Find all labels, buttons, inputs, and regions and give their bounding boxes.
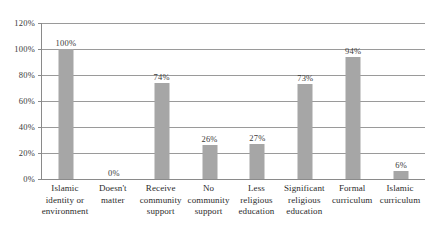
bar[interactable] [58, 49, 73, 179]
y-axis-tick-label: 120% [14, 18, 35, 28]
bar[interactable] [202, 145, 217, 179]
plot-area: 0%20%40%60%80%100%120% 100%0%74%26%27%73… [41, 23, 425, 180]
bar-chart: 0%20%40%60%80%100%120% 100%0%74%26%27%73… [0, 0, 435, 234]
bar[interactable] [154, 83, 169, 179]
bar-value-label: 73% [297, 73, 313, 83]
bar-slot: 0% [90, 23, 138, 179]
bar-slot: 100% [42, 23, 90, 179]
y-axis-tick-label: 0% [23, 174, 35, 184]
bar[interactable] [250, 144, 265, 179]
bar[interactable] [298, 84, 313, 179]
y-axis-tick-label: 60% [19, 96, 35, 106]
bar-value-label: 94% [345, 46, 361, 56]
bar-slot: 73% [281, 23, 329, 179]
bar-value-label: 74% [154, 72, 170, 82]
bar-slot: 27% [234, 23, 282, 179]
bar-value-label: 100% [56, 38, 77, 48]
y-axis-tick-label: 40% [19, 122, 35, 132]
bar-slot: 6% [377, 23, 425, 179]
bar-value-label: 26% [201, 134, 217, 144]
bar-slot: 94% [329, 23, 377, 179]
x-axis-category-label: Islamiccurriculum [372, 183, 428, 206]
bars-layer: 100%0%74%26%27%73%94%6% [42, 23, 425, 179]
bar-slot: 74% [138, 23, 186, 179]
x-axis-category-labels: Islamicidentity orenvironmentDoesn'tmatt… [41, 183, 425, 231]
y-axis-tick-label: 100% [14, 44, 35, 54]
bar-value-label: 27% [249, 133, 265, 143]
y-axis-tick-label: 80% [19, 70, 35, 80]
y-axis-tick-label: 20% [19, 148, 35, 158]
bar[interactable] [346, 57, 361, 179]
bar-value-label: 6% [395, 160, 407, 170]
bar-slot: 26% [186, 23, 234, 179]
bar-value-label: 0% [108, 168, 120, 178]
bar[interactable] [394, 171, 409, 179]
